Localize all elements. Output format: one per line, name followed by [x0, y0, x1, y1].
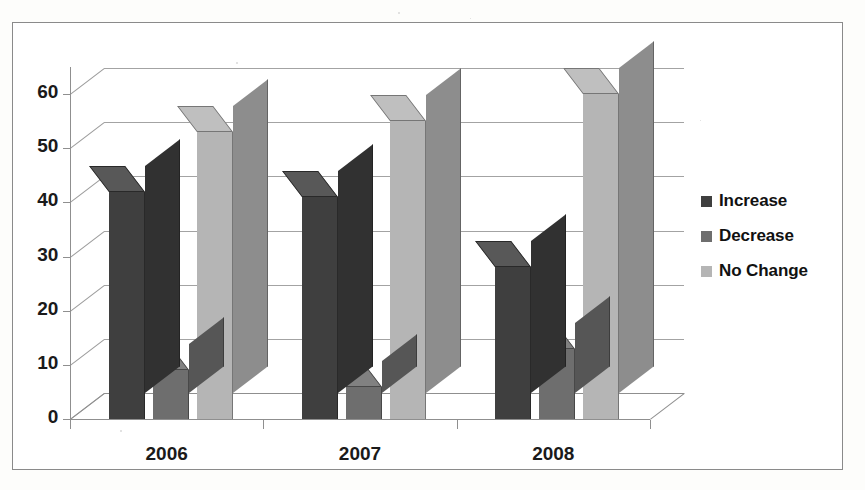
bar-top-face: [475, 241, 531, 267]
bar-top-face: [370, 95, 426, 121]
y-axis-label: 20: [8, 298, 58, 320]
bar-side-face: [145, 139, 180, 393]
legend-item-no-change[interactable]: No Change: [701, 261, 808, 281]
legend-swatch-icon: [701, 196, 712, 207]
y-axis-label: 0: [8, 406, 58, 428]
bar-increase-2008: [495, 241, 565, 419]
x-axis-label-2007: 2007: [263, 443, 456, 465]
y-axis-label: 10: [8, 352, 58, 374]
x-axis-tick: [650, 420, 651, 429]
x-axis-tick: [263, 420, 264, 429]
gridline-riser: [70, 285, 105, 312]
x-axis-label-2008: 2008: [457, 443, 650, 465]
bar-side-face: [426, 68, 461, 393]
legend-label: Decrease: [719, 226, 794, 246]
x-axis-label-2006: 2006: [70, 443, 263, 465]
gridline-riser: [70, 339, 105, 366]
bar-front-face: [302, 197, 338, 419]
legend-label: No Change: [719, 261, 808, 281]
x-axis-tick-origin: [70, 420, 71, 429]
bar-top-face: [563, 68, 619, 94]
y-axis-label: 40: [8, 189, 58, 211]
chart-screenshot: 0102030405060200620072008 IncreaseDecrea…: [0, 0, 865, 490]
y-axis-label: 50: [8, 135, 58, 157]
legend-item-increase[interactable]: Increase: [701, 191, 787, 211]
bar-side-face: [233, 79, 268, 393]
floor-right-edge: [650, 393, 685, 420]
gridline-riser: [70, 231, 105, 258]
scan-artifact: [470, 18, 471, 19]
plot-area: 0102030405060200620072008: [13, 23, 844, 471]
legend-item-decrease[interactable]: Decrease: [701, 226, 794, 246]
scan-artifact: [398, 12, 400, 14]
chart-frame: 0102030405060200620072008 IncreaseDecrea…: [12, 22, 843, 470]
bar-side-face: [338, 144, 373, 393]
bar-top-face: [89, 166, 145, 192]
bar-increase-2007: [302, 171, 372, 419]
bar-increase-2006: [109, 166, 179, 419]
legend-swatch-icon: [701, 266, 712, 277]
scan-artifact: [700, 120, 701, 121]
bar-front-face: [495, 267, 531, 419]
legend-label: Increase: [719, 191, 787, 211]
gridline-riser: [70, 68, 105, 95]
bar-side-face: [575, 296, 610, 393]
y-axis-label: 30: [8, 244, 58, 266]
gridline-riser: [70, 122, 105, 149]
x-axis-tick: [457, 420, 458, 429]
bar-front-face: [109, 192, 145, 419]
y-axis-line: [70, 67, 71, 420]
scan-artifact: [236, 62, 238, 64]
legend-swatch-icon: [701, 231, 712, 242]
bar-top-face: [282, 171, 338, 197]
x-axis-front-edge: [70, 419, 650, 420]
bar-side-face: [531, 215, 566, 393]
bar-top-face: [177, 106, 233, 132]
scan-artifact: [120, 430, 122, 432]
y-axis-label: 60: [8, 81, 58, 103]
bar-side-face: [619, 41, 654, 393]
floor-left-edge: [70, 393, 105, 420]
